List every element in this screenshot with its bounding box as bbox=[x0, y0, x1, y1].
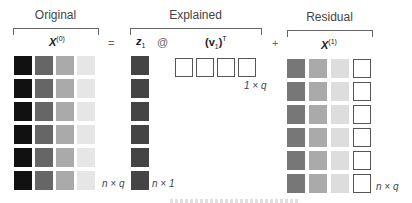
residual-matrix-label: X(1) bbox=[321, 38, 337, 51]
residual-dims: n × q bbox=[376, 181, 399, 192]
z-cell bbox=[131, 102, 149, 121]
original-cell bbox=[56, 79, 74, 98]
original-dims: n × q bbox=[102, 178, 125, 189]
v-cell bbox=[238, 58, 256, 77]
z-cell bbox=[131, 148, 149, 167]
original-cell bbox=[77, 148, 95, 167]
original-cell bbox=[14, 171, 32, 190]
explained-bracket bbox=[130, 28, 262, 35]
original-cell bbox=[77, 125, 95, 144]
original-cell bbox=[35, 171, 53, 190]
residual-cell bbox=[353, 151, 371, 170]
residual-cell bbox=[309, 174, 327, 193]
z-vector-label: z1 bbox=[136, 35, 145, 49]
z-cell bbox=[131, 56, 149, 75]
residual-cell bbox=[353, 174, 371, 193]
original-cell bbox=[56, 56, 74, 75]
residual-cell bbox=[309, 82, 327, 101]
original-cell bbox=[77, 79, 95, 98]
original-cell bbox=[14, 102, 32, 121]
plus-operator: + bbox=[272, 37, 278, 49]
equals-operator: = bbox=[108, 37, 114, 49]
original-title: Original bbox=[13, 8, 98, 22]
v-transpose-label: (v1)T bbox=[205, 35, 227, 50]
original-cell bbox=[77, 102, 95, 121]
original-cell bbox=[35, 148, 53, 167]
residual-cell bbox=[287, 174, 305, 193]
original-cell bbox=[35, 102, 53, 121]
original-cell bbox=[14, 79, 32, 98]
original-cell bbox=[14, 56, 32, 75]
residual-cell bbox=[287, 151, 305, 170]
residual-cell bbox=[353, 59, 371, 78]
residual-cell bbox=[331, 128, 349, 147]
matmul-operator: @ bbox=[157, 36, 168, 48]
residual-cell bbox=[353, 128, 371, 147]
residual-cell bbox=[309, 105, 327, 124]
original-cell bbox=[35, 56, 53, 75]
residual-cell bbox=[353, 105, 371, 124]
z-cell bbox=[131, 171, 149, 190]
original-cell bbox=[14, 148, 32, 167]
original-cell bbox=[56, 102, 74, 121]
original-matrix-label: X(0) bbox=[49, 35, 65, 48]
residual-cell bbox=[309, 59, 327, 78]
v-cell bbox=[175, 58, 193, 77]
original-cell bbox=[35, 79, 53, 98]
residual-cell bbox=[287, 59, 305, 78]
residual-cell bbox=[353, 82, 371, 101]
residual-cell bbox=[309, 151, 327, 170]
original-cell bbox=[56, 125, 74, 144]
residual-cell bbox=[287, 82, 305, 101]
residual-cell bbox=[331, 151, 349, 170]
residual-cell bbox=[331, 105, 349, 124]
original-cell bbox=[56, 171, 74, 190]
caption-fragment bbox=[170, 199, 300, 203]
z-cell bbox=[131, 125, 149, 144]
original-cell bbox=[77, 56, 95, 75]
residual-cell bbox=[331, 174, 349, 193]
residual-cell bbox=[287, 128, 305, 147]
residual-cell bbox=[287, 105, 305, 124]
explained-title: Explained bbox=[130, 8, 261, 22]
residual-cell bbox=[331, 59, 349, 78]
original-bracket bbox=[13, 28, 99, 35]
original-cell bbox=[35, 125, 53, 144]
v-cell bbox=[217, 58, 235, 77]
original-cell bbox=[56, 148, 74, 167]
original-cell bbox=[14, 125, 32, 144]
residual-title: Residual bbox=[287, 10, 372, 24]
residual-cell bbox=[309, 128, 327, 147]
z-cell bbox=[131, 79, 149, 98]
z-dims: n × 1 bbox=[152, 178, 175, 189]
v-dims: 1 × q bbox=[244, 80, 267, 91]
residual-bracket bbox=[287, 30, 373, 37]
residual-cell bbox=[331, 82, 349, 101]
original-cell bbox=[77, 171, 95, 190]
v-cell bbox=[196, 58, 214, 77]
